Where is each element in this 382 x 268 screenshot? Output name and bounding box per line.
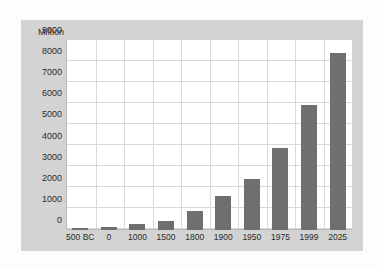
- bar-slot: [123, 40, 152, 230]
- bar-slot: [180, 40, 209, 230]
- bar: [187, 211, 203, 230]
- bar-slot: [95, 40, 124, 230]
- bar: [72, 228, 88, 230]
- x-axis-tick-labels: 500 BC010001500180019001950197519992025: [66, 232, 352, 242]
- bar: [158, 221, 174, 230]
- y-axis-tick-label: 6000: [22, 88, 62, 98]
- bar: [301, 105, 317, 230]
- bar-slot: [295, 40, 324, 230]
- bar-slot: [66, 40, 95, 230]
- y-axis-tick-label: 8000: [22, 46, 62, 56]
- x-axis-tick-label: 1900: [209, 232, 238, 242]
- bar: [244, 179, 260, 230]
- bar: [272, 148, 288, 230]
- bar: [330, 53, 346, 230]
- bar-slot: [323, 40, 352, 230]
- bar-slot: [152, 40, 181, 230]
- x-axis-tick-label: 1975: [266, 232, 295, 242]
- x-axis-tick-label: 1999: [295, 232, 324, 242]
- bar: [215, 196, 231, 230]
- x-axis-tick-label: 1950: [238, 232, 267, 242]
- x-axis-tick-label: 1000: [123, 232, 152, 242]
- y-axis-tick-label: 9000: [22, 25, 62, 35]
- x-axis-tick-label: 0: [95, 232, 124, 242]
- bar-series: [66, 40, 352, 230]
- chart-figure: Million 01000200030004000500060007000800…: [0, 0, 382, 268]
- y-axis-tick-label: 0: [22, 215, 62, 225]
- x-axis-tick-label: 1800: [180, 232, 209, 242]
- bar: [101, 227, 117, 230]
- y-axis-tick-label: 3000: [22, 152, 62, 162]
- x-axis-tick-label: 2025: [323, 232, 352, 242]
- bar: [129, 224, 145, 230]
- y-axis-tick-labels: 0100020003000400050006000700080009000: [20, 40, 62, 230]
- y-axis-tick-label: 2000: [22, 173, 62, 183]
- x-axis-tick-label: 1500: [152, 232, 181, 242]
- x-axis-tick-label: 500 BC: [66, 232, 95, 242]
- y-axis-tick-label: 4000: [22, 131, 62, 141]
- y-axis-tick-label: 7000: [22, 67, 62, 77]
- bar-slot: [238, 40, 267, 230]
- y-axis-tick-label: 1000: [22, 194, 62, 204]
- bar-slot: [209, 40, 238, 230]
- y-axis-tick-label: 5000: [22, 109, 62, 119]
- bar-slot: [266, 40, 295, 230]
